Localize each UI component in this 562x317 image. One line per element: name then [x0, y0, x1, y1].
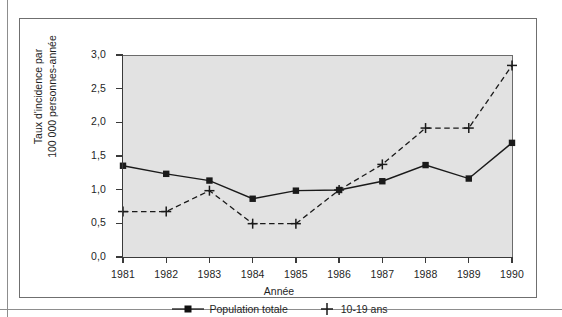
- x-tick-label: 1990: [490, 268, 534, 280]
- x-tick-mark: [468, 257, 469, 263]
- x-tick-label: 1989: [447, 268, 491, 280]
- data-point-square: [422, 162, 428, 168]
- data-point-square: [249, 196, 255, 202]
- x-tick-mark: [166, 257, 167, 263]
- y-tick-mark: [116, 223, 123, 224]
- y-tick-label: 0,0: [48, 250, 106, 262]
- x-tick-mark: [511, 257, 512, 263]
- legend-entry-10-19-ans: 10-19 ans: [318, 302, 388, 316]
- data-point-plus: [464, 123, 474, 133]
- data-point-plus: [507, 60, 517, 70]
- x-tick-mark: [338, 257, 339, 263]
- y-tick-label: 1,0: [48, 183, 106, 195]
- y-tick-mark: [116, 189, 123, 190]
- legend-entry-population-totale: Population totale: [171, 303, 288, 315]
- data-point-plus: [161, 207, 171, 217]
- y-axis-title: Taux d'incidence par 100 000 personnes-a…: [32, 27, 59, 167]
- legend-label-10-19-ans: 10-19 ans: [341, 303, 388, 315]
- data-point-plus: [248, 219, 258, 229]
- figure-root: 0,00,51,01,52,02,53,0 198119821983198419…: [0, 0, 562, 317]
- data-point-plus: [204, 186, 214, 196]
- y-tick-mark: [116, 54, 123, 55]
- y-tick-mark: [116, 122, 123, 123]
- data-point-square: [163, 171, 169, 177]
- y-tick-mark: [116, 88, 123, 89]
- plot-area: [123, 55, 513, 258]
- x-tick-label: 1987: [360, 268, 404, 280]
- y-tick-label: 0,5: [48, 216, 106, 228]
- x-tick-mark: [425, 257, 426, 263]
- x-axis-title: Année: [20, 285, 538, 297]
- y-axis-title-line-2: 100 000 personnes-année: [45, 27, 59, 167]
- chart-figure: 0,00,51,01,52,02,53,0 198119821983198419…: [19, 18, 537, 298]
- series-line: [123, 65, 512, 223]
- plot-series-canvas: [123, 56, 512, 258]
- x-tick-label: 1981: [101, 268, 145, 280]
- y-axis-title-line-1: Taux d'incidence par: [32, 27, 46, 167]
- x-tick-mark: [209, 257, 210, 263]
- x-tick-mark: [382, 257, 383, 263]
- x-axis-line: [122, 257, 513, 258]
- data-point-square: [379, 178, 385, 184]
- chart-legend: Population totale 10-19 ans: [20, 302, 538, 316]
- x-tick-label: 1986: [317, 268, 361, 280]
- legend-label-population-totale: Population totale: [210, 303, 288, 315]
- page-rule-left: [7, 0, 8, 317]
- y-tick-mark: [116, 155, 123, 156]
- x-tick-mark: [252, 257, 253, 263]
- series-10-19-ans: [118, 60, 517, 228]
- data-point-square: [206, 177, 212, 183]
- x-tick-label: 1982: [144, 268, 188, 280]
- x-tick-label: 1983: [187, 268, 231, 280]
- x-tick-label: 1985: [274, 268, 318, 280]
- square-marker-icon: [171, 303, 205, 315]
- x-tick-label: 1984: [231, 268, 275, 280]
- series-line: [123, 143, 512, 199]
- x-tick-mark: [122, 257, 123, 263]
- x-tick-mark: [295, 257, 296, 263]
- plus-marker-icon: [318, 302, 336, 316]
- series-population-totale: [120, 140, 515, 202]
- x-tick-label: 1988: [404, 268, 448, 280]
- data-point-square: [293, 187, 299, 193]
- data-point-square: [509, 140, 515, 146]
- data-point-square: [466, 175, 472, 181]
